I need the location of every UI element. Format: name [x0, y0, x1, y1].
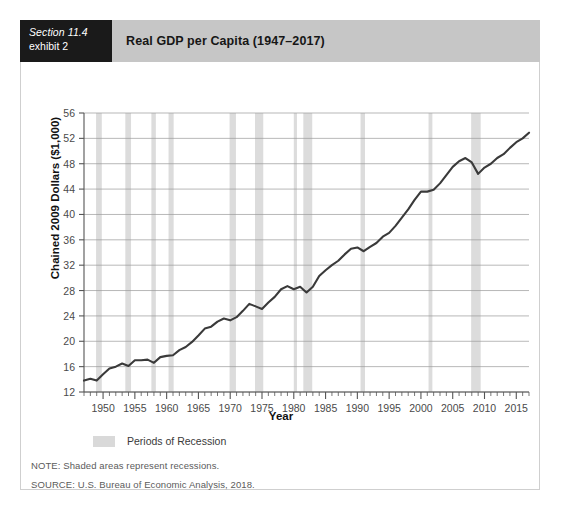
recession-bands [96, 113, 481, 392]
x-axis-title: Year [21, 410, 541, 422]
recession-band [294, 113, 297, 392]
exhibit-body: 121620242832364044485256 195019551960196… [20, 62, 540, 490]
recession-band [361, 113, 365, 392]
recession-band [96, 113, 102, 392]
recession-band [303, 113, 312, 392]
exhibit-header: Section 11.4 exhibit 2 Real GDP per Capi… [20, 20, 540, 62]
y-tick-label: 36 [63, 234, 75, 246]
y-tick-label: 28 [63, 285, 75, 297]
footnotes: NOTE: Shaded areas represent recessions.… [31, 456, 531, 494]
y-tick-label: 48 [63, 158, 75, 170]
section-label: Section 11.4 [29, 25, 112, 39]
exhibit-tag: Section 11.4 exhibit 2 [20, 20, 112, 62]
recession-band [429, 113, 433, 392]
recession-legend-label: Periods of Recession [127, 435, 226, 447]
recession-band [255, 113, 263, 392]
y-tick-label: 24 [63, 310, 75, 322]
chart-legend: Periods of Recession [93, 435, 226, 447]
y-axis-title: Chained 2009 Dollars ($1,000) [49, 98, 61, 298]
note-text: NOTE: Shaded areas represent recessions. [31, 456, 531, 475]
recession-band [125, 113, 131, 392]
y-tick-label: 16 [63, 361, 75, 373]
exhibit-figure: Section 11.4 exhibit 2 Real GDP per Capi… [20, 20, 540, 490]
y-tick-label: 12 [63, 386, 75, 398]
recession-band [151, 113, 155, 392]
source-text: SOURCE: U.S. Bureau of Economic Analysis… [31, 475, 531, 494]
line-chart-svg: 121620242832364044485256 195019551960196… [21, 62, 541, 490]
y-tick-label: 20 [63, 335, 75, 347]
recession-band [471, 113, 481, 392]
exhibit-label: exhibit 2 [29, 39, 112, 53]
recession-band [230, 113, 236, 392]
y-tick-label: 32 [63, 259, 75, 271]
y-tick-label: 56 [63, 107, 75, 119]
chart-plot-area: 121620242832364044485256 195019551960196… [21, 62, 541, 490]
page-title: Real GDP per Capita (1947–2017) [126, 20, 325, 62]
y-tick-label: 52 [63, 132, 75, 144]
y-tick-label: 40 [63, 208, 75, 220]
recession-band [169, 113, 174, 392]
y-axis-tick-labels: 121620242832364044485256 [63, 107, 75, 398]
recession-legend-swatch [93, 436, 115, 447]
y-tick-label: 44 [63, 183, 75, 195]
